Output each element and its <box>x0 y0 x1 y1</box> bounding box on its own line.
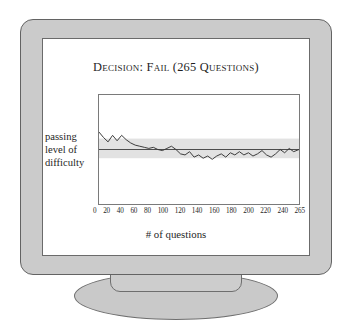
x-tick-label-120: 120 <box>175 207 185 215</box>
monitor-illustration: Decision: Fail (265 Questions) passing l… <box>0 0 352 333</box>
x-tick-label-40: 40 <box>117 207 124 215</box>
y-axis-label-line-3: difficulty <box>45 156 97 169</box>
y-axis-label-line-1: passing <box>45 130 97 143</box>
x-tick-label-140: 140 <box>192 207 202 215</box>
x-tick-label-200: 200 <box>243 207 253 215</box>
y-axis-label: passing level of difficulty <box>45 130 97 170</box>
y-axis-label-line-2: level of <box>45 143 97 156</box>
x-tick-label-20: 20 <box>103 207 110 215</box>
x-axis-tick-labels: 020406080100120140160180200220240265 <box>93 207 305 215</box>
x-axis-caption: # of questions <box>42 228 310 240</box>
x-tick-label-180: 180 <box>226 207 236 215</box>
x-tick-label-0: 0 <box>93 207 97 215</box>
x-tick-label-80: 80 <box>144 207 151 215</box>
plot-area <box>98 94 300 205</box>
x-tick-label-240: 240 <box>277 207 287 215</box>
x-tick-label-60: 60 <box>130 207 137 215</box>
x-tick-label-265: 265 <box>295 207 305 215</box>
page-title: Decision: Fail (265 Questions) <box>42 60 310 75</box>
x-tick-label-220: 220 <box>260 207 270 215</box>
x-tick-label-160: 160 <box>209 207 219 215</box>
x-tick-label-100: 100 <box>158 207 168 215</box>
line-chart-svg <box>99 95 299 204</box>
